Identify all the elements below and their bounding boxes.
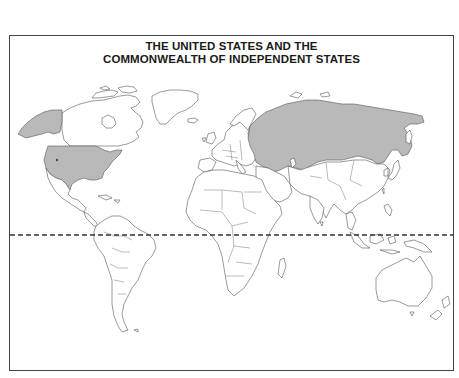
new-guinea: [404, 240, 432, 252]
taiwan: [382, 188, 384, 194]
falklands: [134, 329, 138, 332]
southeast-asia: [346, 212, 356, 230]
novaya-zemlya: [290, 92, 330, 98]
sri-lanka: [320, 222, 323, 226]
new-zealand: [430, 296, 450, 320]
asia: [288, 160, 390, 218]
south-america: [94, 216, 156, 332]
world-map: [0, 0, 459, 378]
british-isles: [202, 132, 216, 144]
australia: [376, 256, 432, 306]
alaska: [18, 110, 62, 138]
madagascar: [278, 258, 286, 278]
iceland: [188, 118, 198, 123]
tasmania: [410, 312, 414, 316]
us-marker: [56, 159, 58, 161]
caribbean: [98, 195, 120, 203]
central-america: [84, 212, 98, 226]
philippines: [384, 204, 392, 216]
